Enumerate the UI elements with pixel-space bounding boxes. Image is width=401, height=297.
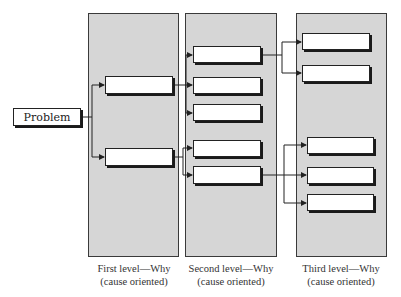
level1-panel — [88, 13, 179, 257]
level3-subtitle: (cause oriented) — [285, 275, 397, 288]
level1-box-2 — [105, 148, 173, 166]
problem-box: Problem — [13, 108, 81, 126]
level2-box-5 — [193, 166, 261, 184]
level2-box-1 — [193, 46, 261, 63]
level3-title: Third level—Why — [285, 262, 397, 275]
level1-box-1 — [105, 76, 173, 94]
level3-box-3 — [307, 137, 374, 154]
problem-label: Problem — [24, 111, 71, 124]
level3-box-1 — [302, 33, 370, 50]
level3-box-5 — [307, 194, 374, 211]
level2-subtitle: (cause oriented) — [174, 275, 288, 288]
level2-box-2 — [193, 77, 261, 94]
level2-title: Second level—Why — [174, 262, 288, 275]
level2-box-3 — [193, 104, 261, 121]
level3-caption: Third level—Why (cause oriented) — [285, 262, 397, 288]
level3-box-4 — [307, 167, 374, 184]
level2-caption: Second level—Why (cause oriented) — [174, 262, 288, 288]
level2-box-4 — [193, 140, 261, 157]
level3-box-2 — [302, 65, 370, 82]
